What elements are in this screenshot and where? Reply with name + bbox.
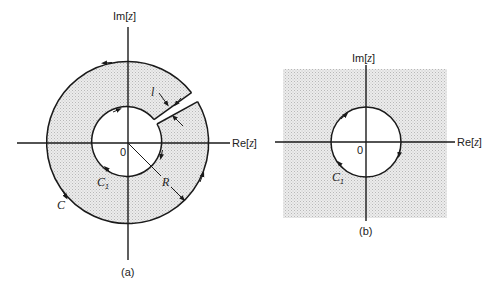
real-axis-label-a: Re[z] <box>232 136 257 150</box>
contour-diagram: Im[z] Re[z] 0 C C1 R l (a) Im[z] Re[z] <box>0 0 495 290</box>
arrow-icon <box>113 110 119 113</box>
panel-b: Im[z] Re[z] 0 C1 (b) <box>275 51 482 237</box>
real-axis-label-b: Re[z] <box>457 135 482 149</box>
caption-b: (b) <box>359 225 372 237</box>
panel-a: Im[z] Re[z] 0 C C1 R l (a) <box>17 9 257 278</box>
imag-axis-label-a: Im[z] <box>113 9 136 23</box>
radius-label: R <box>161 175 170 189</box>
origin-label-a: 0 <box>120 146 126 158</box>
arrow-icon <box>104 63 112 64</box>
caption-a: (a) <box>121 266 134 278</box>
outer-contour-label: C <box>57 198 66 212</box>
exterior-region <box>283 69 447 218</box>
imag-axis-label-b: Im[z] <box>352 51 375 65</box>
origin-label-b: 0 <box>357 144 363 156</box>
